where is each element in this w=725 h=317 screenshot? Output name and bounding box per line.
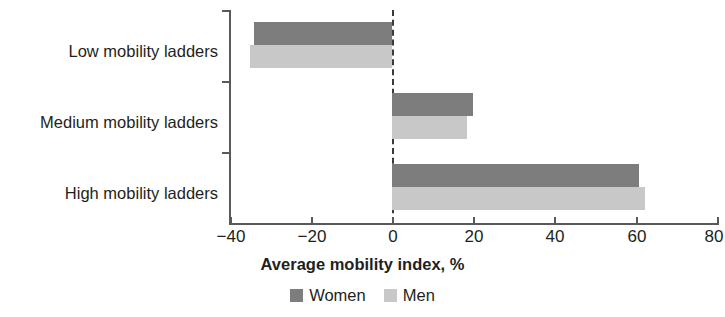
bar-women-high xyxy=(392,164,639,187)
x-axis-tick-20 xyxy=(473,217,475,225)
x-axis-tick-0 xyxy=(392,217,394,225)
x-axis-label--40: −40 xyxy=(217,228,246,245)
legend-item-men: Men xyxy=(384,287,435,304)
x-axis-tick-60 xyxy=(636,217,638,225)
bar-women-medium xyxy=(392,93,473,116)
y-axis-tick-top xyxy=(222,10,230,12)
category-label-low: Low mobility ladders xyxy=(0,43,218,60)
x-axis-label-80: 80 xyxy=(705,228,724,245)
x-axis-tick-80 xyxy=(717,217,719,225)
x-axis-label-40: 40 xyxy=(546,228,565,245)
y-axis-tick-medium-high xyxy=(222,152,230,154)
bar-men-high xyxy=(392,187,645,210)
x-axis-tick--40 xyxy=(230,217,232,225)
mobility-index-bar-chart: Low mobility ladders Medium mobility lad… xyxy=(0,0,725,317)
category-label-medium: Medium mobility ladders xyxy=(0,114,218,131)
plot-area xyxy=(231,10,719,223)
x-axis-tick--20 xyxy=(311,217,313,225)
chart-legend: Women Men xyxy=(0,287,725,304)
legend-label-women: Women xyxy=(309,287,366,304)
bar-women-low xyxy=(254,22,392,45)
y-axis-tick-low-medium xyxy=(222,81,230,83)
legend-label-men: Men xyxy=(403,287,435,304)
x-axis-tick-40 xyxy=(554,217,556,225)
legend-item-women: Women xyxy=(290,287,366,304)
x-axis-title: Average mobility index, % xyxy=(0,255,725,274)
x-axis-label-20: 20 xyxy=(465,228,484,245)
category-axis-labels: Low mobility ladders Medium mobility lad… xyxy=(0,10,226,223)
category-label-high: High mobility ladders xyxy=(0,185,218,202)
legend-swatch-men-icon xyxy=(384,289,397,302)
x-axis-label-0: 0 xyxy=(388,228,397,245)
x-axis-label-60: 60 xyxy=(628,228,647,245)
legend-swatch-women-icon xyxy=(290,289,303,302)
bar-men-medium xyxy=(392,116,467,139)
x-axis-label--20: −20 xyxy=(298,228,327,245)
bar-men-low xyxy=(250,45,392,68)
